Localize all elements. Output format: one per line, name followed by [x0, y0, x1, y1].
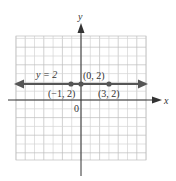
- point-label-0-2: (0, 2): [83, 70, 105, 82]
- point-label-neg1-2: (−1, 2): [48, 88, 75, 100]
- point-0-2: [78, 81, 83, 86]
- point-label-3-2: (3, 2): [98, 88, 120, 100]
- y-axis-arrow-icon: [78, 23, 85, 33]
- coordinate-plane: x y 0 y = 2 (0, 2) (−1, 2) (3, 2): [0, 0, 176, 181]
- line-right-arrow-icon: [138, 80, 148, 89]
- line-left-arrow-icon: [14, 80, 24, 89]
- point-3-2: [106, 81, 111, 86]
- line-label: y = 2: [35, 69, 57, 80]
- point-neg1-2: [68, 81, 73, 86]
- y-axis-label: y: [77, 11, 83, 22]
- origin-label: 0: [74, 103, 79, 114]
- x-axis-arrow-icon: [152, 97, 162, 104]
- x-axis-label: x: [163, 95, 169, 106]
